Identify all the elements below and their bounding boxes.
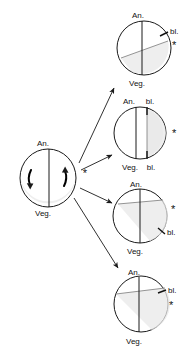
arrow-to-outcome-1: [79, 88, 114, 163]
outcome-4-asterisk: *: [169, 299, 174, 311]
outcome-2-animal-label: An.: [123, 97, 135, 106]
outcome-3-vegetal-label: Veg.: [127, 247, 143, 256]
outcome-2-shading: [147, 109, 166, 157]
source-egg-group: An. Veg. *: [20, 139, 88, 218]
arrow-to-outcome-3: [80, 188, 112, 203]
source-egg-vegetal-label: Veg.: [35, 209, 51, 218]
outcome-1-group: bl. * An. Veg.: [117, 11, 178, 88]
outcome-1-blastopore-label: bl.: [170, 27, 178, 36]
outcome-4-group: bl. * An. Veg.: [114, 268, 176, 346]
outcome-1-vegetal-label: Veg.: [129, 79, 145, 88]
source-egg-animal-label: An.: [37, 139, 49, 148]
outcome-3-animal-label: An.: [130, 180, 142, 189]
outcome-4-blastopore-label: bl.: [168, 286, 176, 295]
outcome-4-vegetal-label: Veg.: [126, 337, 142, 346]
outcome-3-group: bl. * An. Veg.: [113, 180, 176, 256]
outcome-3-blastopore-label: bl.: [167, 228, 175, 237]
outcome-2-vegetal-label: Veg.: [122, 163, 138, 172]
arrow-to-outcome-4: [74, 198, 118, 268]
arrow-to-outcome-2: [81, 155, 112, 170]
outcome-1-asterisk: *: [172, 39, 177, 51]
outcome-2-asterisk: *: [172, 127, 177, 139]
outcome-1-animal-label: An.: [132, 11, 144, 20]
flow-arrows-group: [74, 88, 118, 268]
outcome-2-group: bl. bl. * An. Veg.: [114, 97, 177, 172]
embryo-fate-diagram: An. Veg. * bl. * An. Veg.: [0, 0, 191, 351]
outcome-2-blastopore-label-top: bl.: [146, 97, 154, 106]
outcome-3-asterisk: *: [171, 203, 176, 215]
outcome-4-animal-label: An.: [128, 268, 140, 277]
outcome-2-blastopore-label-bottom: bl.: [147, 163, 155, 172]
